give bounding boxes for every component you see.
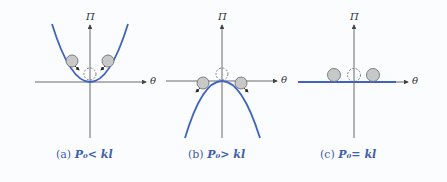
ball-right (367, 69, 380, 82)
arrow-icon (101, 66, 105, 70)
caption-c-math: P₀= kl (338, 148, 376, 161)
x-axis-label-b: θ (281, 74, 287, 85)
x-axis-label-c: θ (412, 75, 418, 86)
ball-right (235, 77, 247, 89)
panel-a (35, 24, 146, 138)
panel-b (166, 25, 277, 138)
arrow-icon (244, 88, 248, 92)
caption-a: (a) P₀< kl (56, 148, 113, 161)
caption-b: (b) P₀> kl (188, 148, 245, 161)
y-axis-label-a: Π (86, 11, 95, 22)
caption-c-prefix: (c) (320, 148, 335, 161)
caption-a-prefix: (a) (56, 148, 71, 161)
panel-c (298, 25, 408, 138)
ball-left (66, 55, 78, 67)
potential-energy-figure: Π θ Π θ Π θ (a) P₀< kl (b) P₀> kl (c) P₀… (0, 0, 447, 182)
caption-b-math: P₀> kl (207, 148, 245, 161)
ball-left (197, 77, 209, 89)
caption-a-math: P₀< kl (75, 148, 113, 161)
caption-b-prefix: (b) (188, 148, 204, 161)
ball-left (328, 69, 341, 82)
y-axis-label-b: Π (218, 11, 227, 22)
ball-right (102, 55, 114, 67)
arrow-icon (196, 88, 200, 92)
y-axis-label-c: Π (350, 11, 359, 22)
potential-curve (185, 81, 260, 138)
caption-c: (c) P₀= kl (320, 148, 376, 161)
x-axis-label-a: θ (150, 75, 156, 86)
arrow-icon (75, 66, 79, 70)
